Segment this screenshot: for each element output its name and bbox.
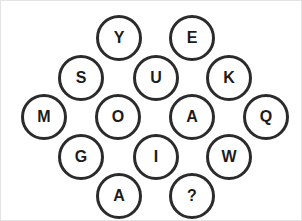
circle-letter: Y	[114, 30, 125, 46]
circle-letter: I	[154, 149, 158, 165]
circle-a1[interactable]: A	[169, 94, 215, 140]
circle-letter: Q	[260, 109, 272, 125]
circle-y[interactable]: Y	[96, 15, 142, 61]
circle-letter: A	[186, 109, 198, 125]
circle-w[interactable]: W	[206, 134, 252, 180]
circle-letter: E	[187, 30, 198, 46]
circle-letter: ?	[187, 188, 197, 204]
circle-u[interactable]: U	[133, 55, 179, 101]
circle-e[interactable]: E	[169, 15, 215, 61]
circle-q[interactable]: Q	[243, 94, 289, 140]
circle-letter: G	[75, 149, 87, 165]
circle-letter: W	[221, 149, 236, 165]
circle-letter: O	[112, 109, 124, 125]
circle-letter: K	[223, 70, 235, 86]
circle-i[interactable]: I	[133, 134, 179, 180]
circle-letter: U	[150, 70, 162, 86]
circle-g[interactable]: G	[58, 134, 104, 180]
circle-letter: A	[113, 188, 125, 204]
circle-question[interactable]: ?	[169, 173, 215, 219]
puzzle-canvas: YESUKMOAQGIWA?	[0, 0, 302, 221]
circle-a2[interactable]: A	[96, 173, 142, 219]
circle-letter: M	[37, 109, 50, 125]
circle-letter: S	[76, 70, 87, 86]
circle-m[interactable]: M	[21, 94, 67, 140]
circle-s[interactable]: S	[58, 55, 104, 101]
circle-k[interactable]: K	[206, 55, 252, 101]
circle-o[interactable]: O	[95, 94, 141, 140]
